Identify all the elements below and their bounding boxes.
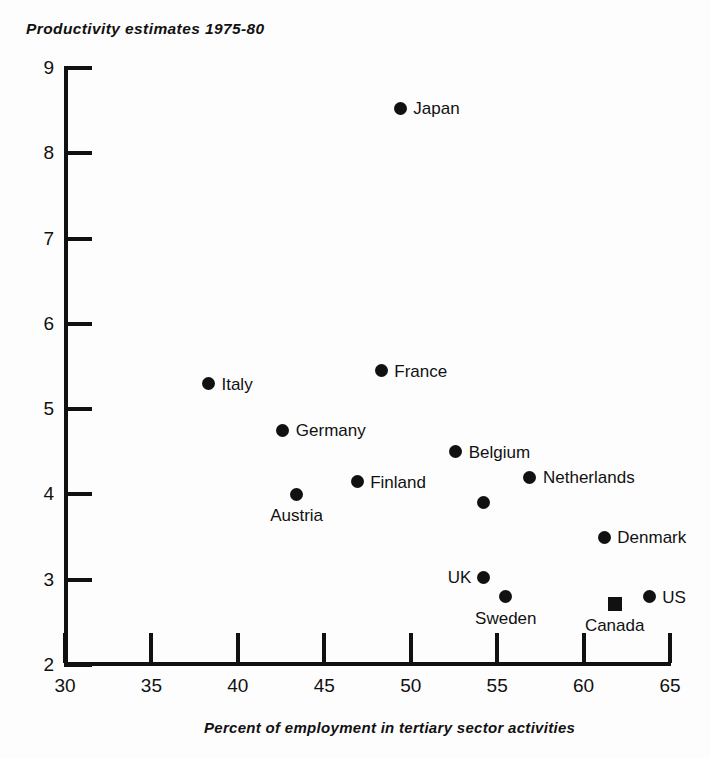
data-point-uk[interactable] (477, 571, 490, 584)
data-point-belgium[interactable] (449, 445, 462, 458)
y-tick-label: 3 (14, 570, 54, 589)
data-point-label-sweden: Sweden (475, 610, 536, 627)
data-point-label-austria: Austria (270, 507, 323, 524)
data-point-label-belgium: Belgium (469, 443, 530, 460)
y-tick (64, 663, 92, 667)
x-tick (409, 633, 413, 663)
x-tick-label: 50 (389, 676, 433, 695)
x-tick (668, 633, 672, 663)
data-point-japan[interactable] (394, 102, 407, 115)
x-tick (63, 633, 67, 663)
data-point-finland[interactable] (351, 475, 364, 488)
data-point-netherlands[interactable] (523, 471, 536, 484)
data-point-austria[interactable] (290, 488, 303, 501)
y-tick (64, 578, 92, 582)
y-tick-label: 6 (14, 314, 54, 333)
y-axis-line (64, 67, 68, 666)
data-point-france[interactable] (375, 364, 388, 377)
y-tick (64, 407, 92, 411)
y-tick (64, 492, 92, 496)
data-point-label-italy: Italy (221, 375, 252, 392)
x-tick-label: 35 (129, 676, 173, 695)
x-tick (495, 633, 499, 663)
data-point-italy[interactable] (202, 377, 215, 390)
data-point-label-france: France (394, 362, 447, 379)
x-tick-label: 65 (648, 676, 692, 695)
data-point-label-finland: Finland (370, 473, 426, 490)
data-point-unlabeled[interactable] (477, 496, 490, 509)
y-tick-label: 2 (14, 655, 54, 674)
y-tick (64, 66, 92, 70)
y-tick-label: 5 (14, 399, 54, 418)
data-point-denmark[interactable] (598, 531, 611, 544)
x-tick (149, 633, 153, 663)
y-tick-label: 4 (14, 484, 54, 503)
data-point-label-denmark: Denmark (617, 529, 686, 546)
y-tick (64, 322, 92, 326)
x-tick (582, 633, 586, 663)
x-tick (322, 633, 326, 663)
x-tick-label: 60 (562, 676, 606, 695)
y-tick (64, 151, 92, 155)
x-tick-label: 55 (475, 676, 519, 695)
data-point-canada[interactable] (608, 597, 622, 611)
data-point-label-canada: Canada (585, 617, 645, 634)
data-point-label-us: US (662, 588, 686, 605)
x-tick-label: 30 (43, 676, 87, 695)
scatter-chart: Productivity estimates 1975-80 23456789 … (0, 0, 710, 758)
data-point-label-germany: Germany (296, 422, 366, 439)
data-point-label-netherlands: Netherlands (543, 469, 635, 486)
data-point-us[interactable] (643, 590, 656, 603)
y-tick (64, 237, 92, 241)
x-tick (236, 633, 240, 663)
x-tick-label: 45 (302, 676, 346, 695)
x-tick-label: 40 (216, 676, 260, 695)
data-point-label-uk: UK (448, 569, 472, 586)
data-point-sweden[interactable] (499, 590, 512, 603)
chart-title: Productivity estimates 1975-80 (26, 20, 265, 38)
y-tick-label: 8 (14, 143, 54, 162)
x-axis-label: Percent of employment in tertiary sector… (204, 719, 575, 736)
y-tick-label: 9 (14, 58, 54, 77)
y-tick-label: 7 (14, 229, 54, 248)
data-point-germany[interactable] (276, 424, 289, 437)
data-point-label-japan: Japan (413, 100, 459, 117)
